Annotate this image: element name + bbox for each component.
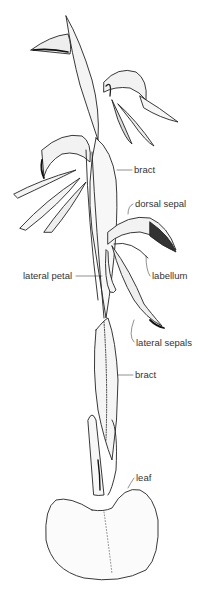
label-dorsal-sepal: dorsal sepal — [135, 199, 186, 209]
label-lateral-sepals: lateral sepals — [136, 338, 192, 348]
label-leaf: leaf — [136, 473, 151, 483]
orchid-illustration — [0, 0, 208, 590]
label-lateral-petal: lateral petal — [23, 271, 72, 281]
label-labellum: labellum — [152, 271, 187, 281]
label-bract-upper: bract — [134, 165, 155, 175]
orchid-diagram: bract dorsal sepal lateral petal labellu… — [0, 0, 208, 590]
label-bract-lower: bract — [135, 370, 156, 380]
